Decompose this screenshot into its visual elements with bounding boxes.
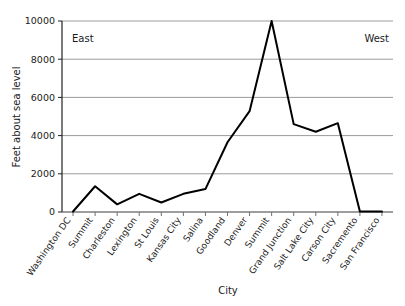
- y-axis-title: Feet about sea level: [11, 66, 22, 167]
- y-tick-label: 0: [49, 206, 55, 217]
- y-tick-label: 10000: [25, 15, 55, 26]
- line-chart-elevation-profile: 0200040006000800010000 EastWest Washingt…: [0, 0, 405, 306]
- y-tick-label: 8000: [31, 54, 55, 65]
- y-tick-label: 2000: [31, 168, 55, 179]
- chart-figure: 0200040006000800010000 EastWest Washingt…: [0, 0, 405, 306]
- chart-annotation-east: East: [72, 33, 94, 44]
- chart-annotation-west: West: [364, 33, 389, 44]
- x-axis-title: City: [218, 285, 238, 296]
- y-tick-label: 4000: [31, 130, 55, 141]
- y-tick-label: 6000: [31, 92, 55, 103]
